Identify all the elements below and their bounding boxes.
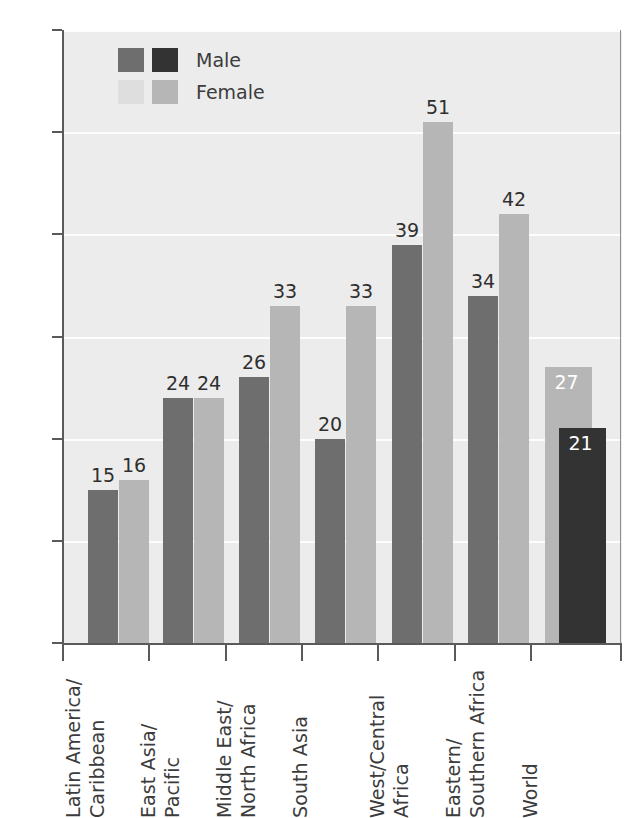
x-category-label-line: South Asia bbox=[289, 716, 311, 818]
bar-female bbox=[423, 122, 453, 643]
legend-item-female[interactable]: Female bbox=[118, 76, 265, 108]
y-tick-mark bbox=[52, 233, 62, 235]
x-category-label-line: East Asia/ bbox=[137, 724, 159, 818]
bar-female bbox=[346, 306, 376, 643]
legend-swatch-male-b bbox=[152, 48, 178, 72]
x-tick-mark bbox=[377, 645, 379, 661]
x-category-label-line: Eastern/ bbox=[442, 739, 464, 818]
y-tick-mark bbox=[52, 336, 62, 338]
legend-item-male[interactable]: Male bbox=[118, 44, 265, 76]
x-tick-mark bbox=[454, 645, 456, 661]
bar-male bbox=[392, 245, 422, 643]
y-tick-mark bbox=[52, 540, 62, 542]
legend-swatch-female-a bbox=[118, 80, 144, 104]
bar-value-label-male: 26 bbox=[224, 351, 284, 373]
x-tick-mark bbox=[530, 645, 532, 661]
gridline bbox=[64, 234, 622, 236]
plot-right-border bbox=[620, 30, 621, 643]
bar-value-label-female: 42 bbox=[484, 188, 544, 210]
x-category-label-line: Pacific bbox=[161, 757, 183, 818]
x-category-label-line: Latin America/ bbox=[62, 679, 84, 818]
x-category-label-line: Africa bbox=[390, 763, 412, 818]
bar-value-label-male: 21 bbox=[551, 432, 611, 454]
chart-legend: Male Female bbox=[118, 44, 265, 108]
bar-value-label-male: 34 bbox=[453, 270, 513, 292]
bar-value-label-female: 33 bbox=[331, 280, 391, 302]
bar-value-label-male: 39 bbox=[377, 219, 437, 241]
bar-male bbox=[559, 428, 606, 643]
bar-value-label-female: 51 bbox=[408, 96, 468, 118]
legend-label-female: Female bbox=[196, 81, 265, 103]
bar-value-label-female: 24 bbox=[179, 372, 239, 394]
bar-male bbox=[468, 296, 498, 643]
bar-male bbox=[315, 439, 345, 643]
y-tick-mark bbox=[52, 131, 62, 133]
x-tick-mark bbox=[225, 645, 227, 661]
legend-label-male: Male bbox=[196, 49, 241, 71]
x-tick-mark bbox=[620, 645, 622, 661]
x-category-label-line: Southern Africa bbox=[466, 670, 488, 818]
x-tick-mark bbox=[148, 645, 150, 661]
y-tick-mark bbox=[52, 642, 62, 644]
bar-female bbox=[119, 480, 149, 643]
legend-swatch-male-a bbox=[118, 48, 144, 72]
gridline bbox=[64, 132, 622, 134]
x-category-label-line: Caribbean bbox=[86, 720, 108, 818]
bar-value-label-female: 16 bbox=[104, 454, 164, 476]
x-category-label-line: Middle East/ bbox=[213, 701, 235, 818]
bar-value-label-female: 33 bbox=[255, 280, 315, 302]
y-tick-mark bbox=[52, 29, 62, 31]
gridline bbox=[64, 30, 622, 32]
bar-male bbox=[239, 377, 269, 643]
bar-female bbox=[194, 398, 224, 643]
y-tick-mark bbox=[52, 438, 62, 440]
bar-value-label-male: 20 bbox=[300, 413, 360, 435]
x-category-label-line: North Africa bbox=[237, 703, 259, 818]
x-tick-mark bbox=[62, 645, 64, 661]
bar-male bbox=[88, 490, 118, 643]
bar-male bbox=[163, 398, 193, 643]
x-category-label-line: World bbox=[519, 763, 541, 818]
gridline bbox=[64, 337, 622, 339]
x-tick-mark bbox=[301, 645, 303, 661]
legend-swatch-female-b bbox=[152, 80, 178, 104]
x-category-label-line: West/Central bbox=[366, 695, 388, 818]
bar-value-label-female: 27 bbox=[537, 371, 597, 393]
